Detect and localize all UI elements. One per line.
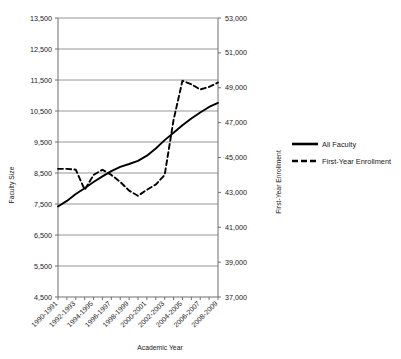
y-axis-right-tick-label: 49,000	[225, 83, 247, 92]
y-axis-left-title: Faculty Size	[8, 166, 16, 203]
y-axis-left-tick-label: 11,500	[31, 76, 52, 85]
y-axis-left-tick-label: 8,500	[34, 169, 52, 178]
y-axis-left-tick-label: 4,500	[34, 293, 52, 302]
y-axis-right-tick-label: 45,000	[225, 153, 247, 162]
legend-label-first-year-enrollment: First-Year Enrollment	[322, 157, 391, 166]
y-axis-left-tick-label: 5,500	[34, 262, 52, 271]
chart-background	[0, 0, 401, 359]
y-axis-right-tick-label: 39,000	[225, 258, 247, 267]
y-axis-right-tick-label: 53,000	[225, 14, 247, 23]
y-axis-right-title: First-Year Enrollment	[275, 150, 282, 214]
line-chart-canvas: 4,5005,5006,5007,5008,5009,50010,50011,5…	[0, 0, 401, 359]
y-axis-right-tick-label: 37,000	[225, 293, 247, 302]
y-axis-right-tick-label: 41,000	[225, 223, 247, 232]
y-axis-right-tick-label: 51,000	[225, 48, 247, 57]
x-axis-title: Academic Year	[137, 344, 183, 351]
chart-figure: 4,5005,5006,5007,5008,5009,50010,50011,5…	[0, 0, 401, 359]
legend-label-all-faculty: All Faculty	[322, 140, 356, 149]
y-axis-left-tick-label: 12,500	[30, 45, 52, 54]
y-axis-left-tick-label: 13,500	[30, 14, 52, 23]
y-axis-right-tick-label: 47,000	[225, 118, 247, 127]
y-axis-left-tick-label: 10,500	[30, 107, 52, 116]
y-axis-left-tick-label: 9,500	[34, 138, 52, 147]
y-axis-right-tick-label: 43,000	[225, 188, 247, 197]
y-axis-left-tick-label: 6,500	[34, 231, 52, 240]
y-axis-left-tick-label: 7,500	[34, 200, 52, 209]
